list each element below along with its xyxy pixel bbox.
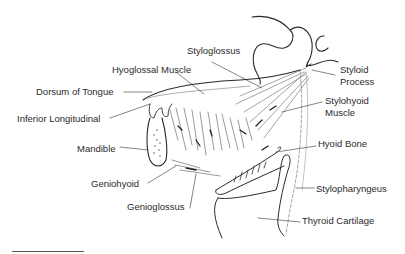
label-mandible: Mandible	[77, 143, 116, 154]
stylopharyngeus-curve-2	[302, 72, 308, 190]
label-styloid-process-1: Styloid	[340, 64, 369, 75]
leader-stylohyoid	[282, 102, 322, 112]
stylopharyngeus-curve	[286, 70, 302, 234]
label-thyroid-cartilage: Thyroid Cartilage	[302, 215, 374, 226]
label-stylohyoid-muscle-2: Muscle	[325, 107, 355, 118]
label-geniohyoid: Geniohyoid	[91, 178, 139, 189]
label-stylohyoid-muscle-1: Stylohyoid	[325, 95, 369, 106]
label-dorsum-of-tongue: Dorsum of Tongue	[36, 86, 113, 97]
leader-inferior-longitudinal	[110, 104, 150, 118]
label-genioglossus: Genioglossus	[127, 201, 185, 212]
mandible-dots	[153, 129, 160, 156]
footnote-rule	[12, 251, 84, 252]
leader-mandible	[120, 147, 148, 150]
styloglossus-band	[236, 68, 306, 112]
leader-styloid	[312, 70, 335, 75]
leader-genioglossus	[190, 174, 196, 208]
hyoid-hatching	[234, 162, 266, 182]
ear-canal-outline	[316, 36, 328, 51]
leader-thyroid	[258, 218, 300, 222]
leader-hyoid	[276, 146, 316, 152]
label-hyoglossal-muscle: Hyoglossal Muscle	[112, 64, 191, 75]
label-inferior-longitudinal: Inferior Longitudinal	[17, 113, 100, 124]
neck-outline	[215, 198, 222, 238]
dorsum-inner	[148, 86, 250, 98]
skull-base-outline-2	[290, 27, 338, 66]
label-stylopharyngeus: Stylopharyngeus	[316, 183, 387, 194]
tongue-anatomy-figure: Styloglossus Hyoglossal Muscle Dorsum of…	[0, 0, 405, 254]
label-styloglossus: Styloglossus	[187, 45, 240, 56]
stylohyoid-band	[250, 72, 309, 138]
label-styloid-process-2: Process	[340, 76, 374, 87]
label-hyoid-bone: Hyoid Bone	[318, 138, 367, 149]
styloid-process	[306, 62, 311, 67]
leader-geniohyoid	[148, 166, 176, 183]
muscle-hatching	[170, 108, 252, 176]
hyoid-bone-outline	[216, 147, 281, 190]
mandible-outline	[147, 118, 167, 166]
teeth	[149, 104, 172, 118]
